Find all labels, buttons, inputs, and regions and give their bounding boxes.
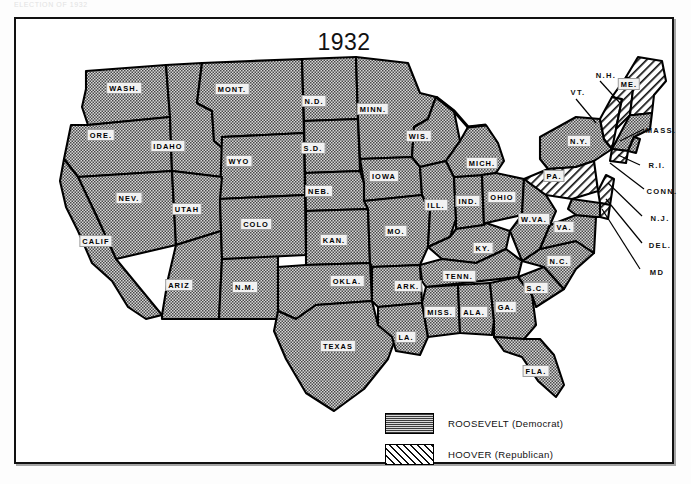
inset-label-mass: MASS.	[646, 126, 677, 135]
state-label-ariz: ARIZ	[165, 279, 193, 291]
leader-conn	[610, 163, 644, 189]
state-label-mo: MO.	[384, 225, 407, 237]
state-label-idaho: IDAHO	[150, 140, 185, 152]
state-label-ill: ILL.	[424, 199, 448, 211]
state-label-va: VA.	[553, 221, 574, 233]
state-label-la: LA.	[395, 331, 416, 343]
state-label-texas: TEXAS	[320, 340, 356, 352]
state-label-ny: N.Y.	[567, 135, 591, 147]
state-label-ky: KY.	[473, 242, 494, 254]
state-label-wis: WIS.	[406, 130, 432, 142]
state-de	[600, 203, 610, 219]
state-label-mont: MONT.	[215, 83, 250, 95]
state-md	[568, 199, 600, 217]
state-nj	[598, 175, 614, 205]
inset-label-md: MD	[650, 268, 664, 277]
state-label-ind: IND.	[455, 195, 480, 207]
state-nd	[302, 57, 358, 121]
state-label-nev: NEV.	[116, 192, 143, 204]
state-label-neb: NEB.	[305, 185, 333, 197]
state-label-calif: CALIF	[79, 235, 112, 247]
inset-label-vt: VT.	[571, 88, 586, 97]
state-label-sd: S.D.	[301, 142, 326, 154]
map-frame: 1932	[14, 17, 674, 464]
legend-label-roosevelt: ROOSEVELT (Democrat)	[448, 418, 563, 429]
us-map: WASH.ORE.IDAHOMONT.WYONEV.UTAHCALIFARIZN…	[16, 19, 676, 466]
state-label-miss: MISS.	[424, 306, 456, 318]
page-caption: ELECTION OF 1932	[14, 1, 234, 12]
state-label-okla: OKLA.	[330, 275, 365, 287]
legend-swatch-hoover	[385, 444, 434, 465]
state-label-me: ME.	[618, 78, 640, 90]
state-label-ark: ARK.	[394, 280, 422, 292]
state-label-pa: PA.	[543, 170, 564, 182]
legend-label-hoover: HOOVER (Republican)	[448, 449, 553, 460]
state-label-sc: S.C.	[524, 282, 549, 294]
state-label-tenn: TENN.	[442, 270, 476, 282]
inset-label-nj: N.J.	[650, 214, 669, 223]
state-label-ohio: OHIO	[487, 191, 516, 203]
legend-row-hoover: HOOVER (Republican)	[385, 443, 563, 465]
inset-label-conn: CONN.	[647, 187, 678, 196]
state-label-mich: MICH.	[466, 157, 498, 169]
inset-label-ri: R.I.	[648, 161, 665, 170]
state-label-fla: FLA.	[523, 365, 550, 377]
inset-label-del: DEL.	[649, 241, 672, 250]
state-label-kan: KAN.	[320, 234, 348, 246]
state-label-nd: N.D.	[301, 95, 326, 107]
leader-nj	[608, 183, 642, 216]
state-label-wva: W.VA.	[518, 213, 550, 225]
inset-label-nh: N.H.	[596, 71, 616, 80]
state-label-ala: ALA.	[460, 306, 488, 318]
map-legend: ROOSEVELT (Democrat) HOOVER (Republican)	[385, 412, 563, 474]
leader-del	[606, 199, 642, 243]
state-label-wash: WASH.	[106, 82, 142, 94]
state-label-nc: N.C.	[546, 255, 571, 267]
state-label-minn: MINN.	[357, 103, 389, 115]
state-label-iowa: IOWA	[369, 170, 399, 182]
state-label-utah: UTAH	[172, 203, 202, 215]
state-label-colo: COLO	[240, 218, 272, 230]
state-label-ga: GA.	[495, 301, 517, 313]
legend-swatch-roosevelt	[385, 413, 434, 434]
state-label-nm: N.M.	[232, 281, 258, 293]
state-label-wyo: WYO	[226, 155, 253, 167]
state-label-ore: ORE.	[87, 129, 115, 141]
legend-row-roosevelt: ROOSEVELT (Democrat)	[385, 412, 563, 434]
state-wash	[82, 65, 170, 125]
